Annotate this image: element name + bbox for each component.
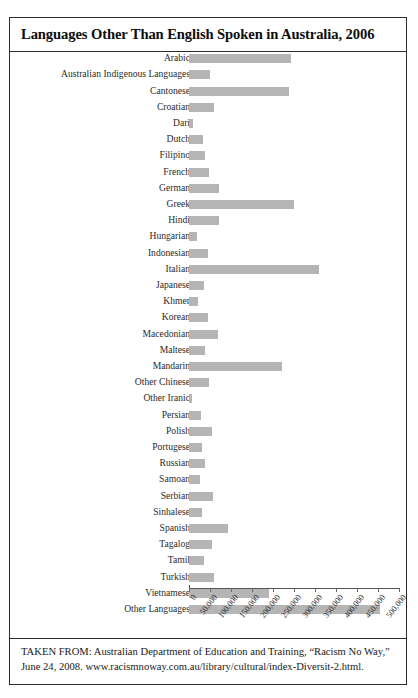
bar bbox=[189, 492, 213, 501]
bar-row: Russian bbox=[10, 457, 406, 473]
bar-row: Tamil bbox=[10, 554, 406, 570]
bar-row: Croatian bbox=[10, 101, 406, 117]
category-label: Turkish bbox=[160, 571, 190, 583]
bar-row: German bbox=[10, 182, 406, 198]
bar bbox=[189, 508, 202, 517]
bar bbox=[189, 330, 218, 339]
x-axis-tick bbox=[315, 588, 316, 592]
x-axis-tick bbox=[378, 588, 379, 592]
bar-row: Spanish bbox=[10, 522, 406, 538]
bar bbox=[189, 135, 203, 144]
bar-row: Portugese bbox=[10, 441, 406, 457]
bar-row: Khmer bbox=[10, 295, 406, 311]
bar bbox=[189, 151, 205, 160]
bar-row: Other Iranic bbox=[10, 392, 406, 408]
category-label: Japanese bbox=[156, 279, 190, 291]
category-label: Indonesian bbox=[148, 247, 190, 259]
category-label: Korean bbox=[162, 311, 190, 323]
bar bbox=[189, 540, 212, 549]
chart-plot-area: ArabicAustralian Indigenous LanguagesCan… bbox=[10, 52, 406, 618]
bar-row: Hungarian bbox=[10, 230, 406, 246]
chart-title: Languages Other Than English Spoken in A… bbox=[21, 26, 397, 43]
x-axis-tick bbox=[399, 588, 400, 592]
bar bbox=[189, 573, 214, 582]
category-label: Australian Indigenous Languages bbox=[61, 68, 190, 80]
bar bbox=[189, 249, 208, 258]
bar-row: Italian bbox=[10, 263, 406, 279]
bar-row: Cantonese bbox=[10, 84, 406, 100]
category-label: Hindi bbox=[168, 214, 190, 226]
bar-row: Arabic bbox=[10, 52, 406, 68]
bar bbox=[189, 427, 212, 436]
category-label: Samoan bbox=[159, 473, 190, 485]
bar bbox=[189, 103, 214, 112]
bar bbox=[189, 70, 210, 79]
bar-row: Dari bbox=[10, 117, 406, 133]
bar bbox=[189, 556, 204, 565]
x-axis-tick bbox=[273, 588, 274, 592]
bar bbox=[189, 216, 219, 225]
bar-row: Hindi bbox=[10, 214, 406, 230]
bar-row: Japanese bbox=[10, 279, 406, 295]
bar-row: Filipino bbox=[10, 149, 406, 165]
category-label: Tagalog bbox=[159, 538, 190, 550]
bar bbox=[189, 200, 294, 209]
bar-row: Serbian bbox=[10, 489, 406, 505]
bar-row: Sinhalese bbox=[10, 506, 406, 522]
bar bbox=[189, 524, 228, 533]
x-axis: 050,000100,000150,000200,000250,000300,0… bbox=[10, 588, 406, 638]
bar-row: Australian Indigenous Languages bbox=[10, 68, 406, 84]
bar bbox=[189, 297, 198, 306]
bar-row: Korean bbox=[10, 311, 406, 327]
category-label: Khmer bbox=[163, 295, 190, 307]
bar-row: Indonesian bbox=[10, 246, 406, 262]
bar bbox=[189, 443, 202, 452]
category-label: Portugese bbox=[152, 441, 190, 453]
category-label: Other Chinese bbox=[135, 376, 190, 388]
bar-row: Mandarin bbox=[10, 360, 406, 376]
category-label: Italian bbox=[165, 263, 190, 275]
x-axis-tick bbox=[231, 588, 232, 592]
bar-row: Dutch bbox=[10, 133, 406, 149]
x-axis-tick bbox=[189, 588, 190, 592]
bar-row: Turkish bbox=[10, 570, 406, 586]
bar bbox=[189, 459, 205, 468]
bar bbox=[189, 362, 282, 371]
bar-row: Macedonian bbox=[10, 327, 406, 343]
bar bbox=[189, 394, 192, 403]
category-label: Sinhalese bbox=[153, 506, 190, 518]
bar bbox=[189, 313, 208, 322]
category-label: Maltese bbox=[160, 344, 190, 356]
category-label: Macedonian bbox=[143, 328, 190, 340]
x-axis-tick bbox=[210, 588, 211, 592]
bar-row: Tagalog bbox=[10, 538, 406, 554]
bar-row: Samoan bbox=[10, 473, 406, 489]
category-label: Persian bbox=[162, 409, 190, 421]
bar bbox=[189, 54, 291, 63]
bar bbox=[189, 475, 200, 484]
bar bbox=[189, 411, 201, 420]
bar bbox=[189, 281, 204, 290]
bar-row: French bbox=[10, 165, 406, 181]
category-label: Dari bbox=[173, 117, 190, 129]
bar bbox=[189, 378, 209, 387]
category-label: Polish bbox=[166, 425, 190, 437]
x-axis-tick bbox=[294, 588, 295, 592]
bar-row: Maltese bbox=[10, 344, 406, 360]
footer-divider bbox=[10, 638, 406, 639]
x-axis-tick bbox=[252, 588, 253, 592]
category-label: Cantonese bbox=[150, 85, 190, 97]
category-label: German bbox=[159, 182, 190, 194]
source-note: TAKEN FROM: Australian Department of Edu… bbox=[21, 644, 393, 674]
bar-row: Other Chinese bbox=[10, 376, 406, 392]
x-axis-tick bbox=[336, 588, 337, 592]
bar bbox=[189, 265, 319, 274]
bar bbox=[189, 119, 193, 128]
category-label: Greek bbox=[167, 198, 190, 210]
category-label: Serbian bbox=[161, 490, 190, 502]
bar-row: Polish bbox=[10, 425, 406, 441]
category-label: Mandarin bbox=[153, 360, 190, 372]
category-label: Other Iranic bbox=[143, 392, 190, 404]
category-label: Spanish bbox=[160, 522, 190, 534]
x-axis-tick bbox=[357, 588, 358, 592]
